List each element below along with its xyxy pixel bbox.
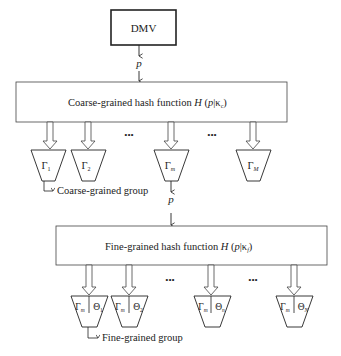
fine-group-N: Γm ΘN xyxy=(276,296,313,327)
hash-diagram: DMV p Coarse-grained hash function H (p|… xyxy=(0,0,341,356)
fine-group-1: Γm Θ1 xyxy=(71,296,108,327)
coarse-hollow-arrows xyxy=(43,122,260,149)
fine-group-caption: Fine-grained group xyxy=(102,332,183,343)
packet-arrow-1: p xyxy=(135,45,142,81)
coarse-hash-box: Coarse-grained hash function H (p|κc) xyxy=(16,82,287,122)
fine-group-2: Γm Θ2 xyxy=(111,296,148,327)
svg-text:p: p xyxy=(167,193,174,205)
fine-group-caption-connector xyxy=(88,327,98,338)
coarse-group-caption-connector xyxy=(44,181,53,191)
coarse-group-caption: Coarse-grained group xyxy=(57,185,148,196)
ellipsis-4: ••• xyxy=(248,275,257,285)
coarse-group-M: ΓM xyxy=(236,150,271,181)
coarse-group-1: Γ1 xyxy=(31,150,66,181)
svg-text:DMV: DMV xyxy=(131,22,157,34)
svg-text:p: p xyxy=(135,57,142,69)
ellipsis-1: ••• xyxy=(124,130,133,140)
fine-group-n: Γm Θn xyxy=(194,296,231,327)
dmv-node: DMV xyxy=(111,10,176,45)
fine-hash-box: Fine-grained hash function H (p|κf) xyxy=(56,226,327,265)
svg-text:Coarse-grained hash function H: Coarse-grained hash function H (p|κc) xyxy=(68,97,227,109)
ellipsis-2: ••• xyxy=(207,130,216,140)
coarse-group-2: Γ2 xyxy=(71,150,106,181)
ellipsis-3: ••• xyxy=(165,275,174,285)
svg-text:Fine-grained hash function H (: Fine-grained hash function H (p|κf) xyxy=(105,241,253,253)
packet-arrow-2: p xyxy=(167,181,174,225)
fine-hollow-arrows xyxy=(82,265,301,295)
coarse-group-m: Γm xyxy=(154,150,189,181)
